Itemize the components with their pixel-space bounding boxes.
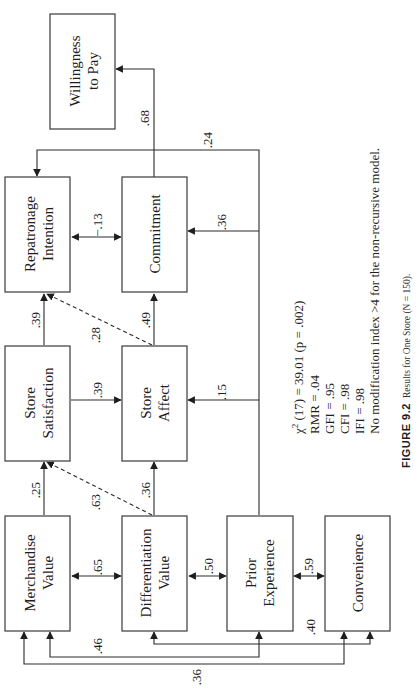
stat-chi-square: χ2 (17) = 39.01 (p = .002) <box>290 301 306 435</box>
node-label: Store <box>138 387 154 419</box>
node-label: Experience <box>261 539 277 607</box>
node-store-satisfaction: Store Satisfaction <box>5 346 70 461</box>
node-label: Affect <box>156 383 172 422</box>
node-differentiation-value: Differentiation Value <box>122 516 187 631</box>
coef-label: .63 <box>88 494 103 510</box>
coef-label: .15 <box>214 384 229 400</box>
node-label: Repatronage <box>22 196 38 272</box>
path-diagram: Willingness to Pay Repatronage Intention… <box>0 0 419 689</box>
node-label: Store <box>22 387 38 419</box>
coef-label: .39 <box>90 382 105 398</box>
coef-label: .40 <box>303 619 318 635</box>
stat-cfi: CFI = .98 <box>337 384 352 434</box>
node-label: Merchandise <box>22 534 38 612</box>
coef-label: .25 <box>28 482 43 498</box>
node-convenience: Convenience <box>325 516 390 631</box>
stat-rmr: RMR = .04 <box>307 375 322 434</box>
stat-gfi: GFI = .95 <box>322 383 337 434</box>
node-repatronage-intention: Repatronage Intention <box>5 177 70 292</box>
node-label: Convenience <box>350 534 366 613</box>
node-label: Value <box>40 556 56 590</box>
stat-ifi: IFI = .98 <box>352 388 367 434</box>
coef-label: .68 <box>137 110 152 126</box>
node-willingness-to-pay: Willingness to Pay <box>50 14 115 129</box>
stat-note: No modification index >4 for the non-rec… <box>367 148 382 434</box>
coef-label: .59 <box>301 558 316 574</box>
node-commitment: Commitment <box>122 177 187 292</box>
figure-number: FIGURE 9.2 <box>400 403 412 468</box>
figure-caption: FIGURE 9.2 Results for One Store (N = 15… <box>400 274 413 468</box>
path-lines <box>24 69 370 664</box>
node-merchandise-value: Merchandise Value <box>5 516 70 631</box>
coef-label: .39 <box>28 312 43 328</box>
figure-title: Results for One Store (N = 150). <box>402 274 413 398</box>
path-merchandise-convenience <box>24 632 344 664</box>
node-label: Value <box>156 556 172 590</box>
coef-label: .36 <box>214 213 229 230</box>
node-label: to Pay <box>85 52 101 90</box>
node-label: Intention <box>40 206 56 261</box>
node-store-affect: Store Affect <box>122 346 187 461</box>
coef-label: .50 <box>201 558 216 574</box>
fit-statistics: χ2 (17) = 39.01 (p = .002) RMR = .04 GFI… <box>290 148 382 435</box>
node-label: Prior <box>243 558 259 588</box>
coef-label: .28 <box>88 327 103 343</box>
path-differentiation-convenience <box>154 632 370 644</box>
node-label: Differentiation <box>138 528 154 617</box>
coef-label: .36 <box>189 668 204 685</box>
node-label: Commitment <box>147 194 163 274</box>
coef-label: .65 <box>90 559 105 575</box>
coef-label: .46 <box>90 637 105 654</box>
coef-label: −.13 <box>90 213 105 237</box>
node-label: Willingness <box>67 35 83 106</box>
node-prior-experience: Prior Experience <box>227 516 293 631</box>
coef-label: .49 <box>138 312 153 328</box>
node-label: Satisfaction <box>40 367 56 438</box>
coef-label: .24 <box>200 131 215 148</box>
coef-label: .36 <box>138 481 153 498</box>
